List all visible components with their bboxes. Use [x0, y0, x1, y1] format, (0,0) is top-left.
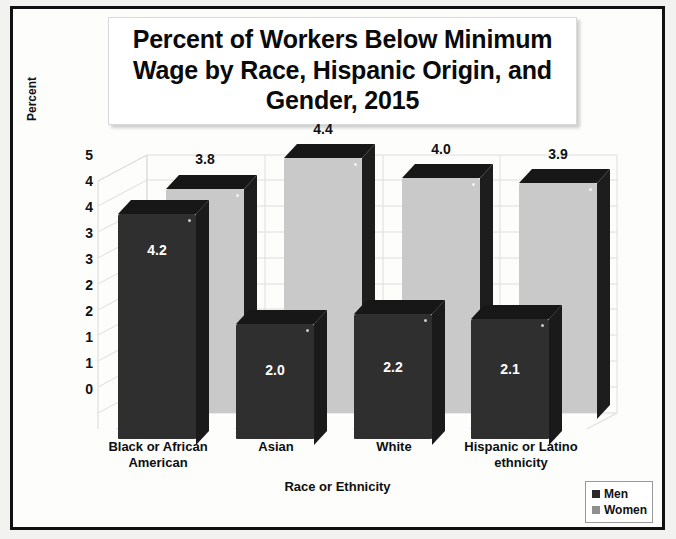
data-label-men-black-or-african-american: 4.2: [118, 242, 196, 258]
x-tick-black-or-african-american: Black or African American: [93, 439, 223, 472]
chart-title-line-3: Gender, 2015: [117, 85, 568, 116]
x-tick-white: White: [329, 439, 459, 455]
x-tick-line-1: Hispanic or Latino: [446, 439, 596, 455]
bar-face: [354, 314, 432, 439]
bar-men-hispanic-or-latino-ethnicity[interactable]: 2.1: [471, 319, 549, 439]
data-label-men-hispanic-or-latino-ethnicity: 2.1: [471, 361, 549, 377]
bar-face: [471, 319, 549, 439]
chart-canvas: Percent of Workers Below Minimum Wage by…: [13, 9, 662, 527]
data-label-women-asian: 4.4: [284, 121, 362, 137]
x-tick-line-1: Asian: [211, 439, 341, 455]
x-axis-tick-labels: Black or African American Asian White Hi…: [13, 439, 662, 483]
data-label-women-white: 4.0: [402, 141, 480, 157]
legend-swatch-women-icon: [592, 506, 600, 514]
legend-entry-women[interactable]: Women: [592, 502, 646, 518]
y-tick-1: 4: [85, 173, 93, 189]
bar-highlight: [236, 194, 239, 197]
legend-entry-men[interactable]: Men: [592, 486, 646, 502]
bar-highlight: [472, 183, 475, 186]
bar-men-white[interactable]: 2.2: [354, 314, 432, 439]
chart-legend[interactable]: Men Women: [585, 481, 653, 523]
bar-highlight: [188, 219, 191, 222]
y-tick-5: 2: [85, 277, 93, 293]
y-axis-tick-labels: 5 4 4 3 3 2 2 1 1 0: [65, 129, 93, 429]
y-tick-3: 3: [85, 225, 93, 241]
legend-swatch-men-icon: [592, 490, 600, 498]
bar-highlight: [306, 329, 309, 332]
scanned-page: Percent of Workers Below Minimum Wage by…: [0, 0, 676, 539]
y-tick-8: 1: [85, 355, 93, 371]
y-tick-0: 5: [85, 147, 93, 163]
x-tick-hispanic-or-latino-ethnicity: Hispanic or Latino ethnicity: [446, 439, 596, 472]
y-tick-2: 4: [85, 199, 93, 215]
x-tick-asian: Asian: [211, 439, 341, 455]
plot-area: 5 4 4 3 3 2 2 1 1 0: [13, 129, 662, 429]
data-label-women-black-or-african-american: 3.8: [166, 151, 244, 167]
bar-highlight: [354, 163, 357, 166]
legend-label-men: Men: [604, 486, 628, 502]
x-axis-title: Race or Ethnicity: [13, 479, 662, 494]
y-tick-9: 0: [85, 381, 93, 397]
bar-men-black-or-african-american[interactable]: 4.2: [118, 214, 196, 439]
chart-title-line-1: Percent of Workers Below Minimum: [117, 24, 568, 55]
bar-highlight: [424, 319, 427, 322]
x-tick-line-1: White: [329, 439, 459, 455]
bar-highlight: [589, 188, 592, 191]
chart-frame: Percent of Workers Below Minimum Wage by…: [10, 6, 665, 530]
data-label-men-white: 2.2: [354, 359, 432, 375]
y-tick-7: 1: [85, 329, 93, 345]
bar-highlight: [541, 324, 544, 327]
data-label-women-hispanic-or-latino-ethnicity: 3.9: [519, 146, 597, 162]
y-tick-4: 3: [85, 251, 93, 267]
bar-face: [236, 324, 314, 439]
x-tick-line-2: American: [93, 455, 223, 471]
x-tick-line-1: Black or African: [93, 439, 223, 455]
x-tick-line-2: ethnicity: [446, 455, 596, 471]
legend-label-women: Women: [604, 502, 647, 518]
bar-men-asian[interactable]: 2.0: [236, 324, 314, 439]
y-tick-6: 2: [85, 303, 93, 319]
data-label-men-asian: 2.0: [236, 362, 314, 378]
chart-title: Percent of Workers Below Minimum Wage by…: [108, 17, 577, 125]
y-axis-title: Percent: [25, 77, 39, 121]
chart-title-line-2: Wage by Race, Hispanic Origin, and: [117, 55, 568, 86]
